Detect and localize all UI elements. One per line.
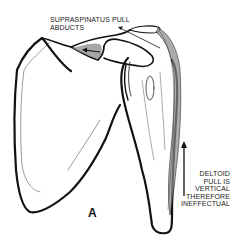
deltoid-label-line5: INEFFECTUAL: [176, 200, 230, 208]
deltoid-label: DELTOID PULL IS VERTICAL THEREFORE INEFF…: [176, 170, 230, 208]
supraspinatus-label: SUPRASPINATUS PULL ABDUCTS: [50, 16, 130, 31]
deltoid-label-line2: PULL IS: [176, 178, 230, 186]
supraspinatus-muscle: [72, 27, 160, 60]
supraspinatus-label-line2: ABDUCTS: [50, 24, 130, 32]
deltoid-label-line4: THEREFORE: [176, 193, 230, 201]
supraspinatus-label-line1: SUPRASPINATUS PULL: [50, 16, 130, 24]
deltoid-label-line3: VERTICAL: [176, 185, 230, 193]
figure-letter: A: [88, 206, 97, 220]
deltoid-label-line1: DELTOID: [176, 170, 230, 178]
